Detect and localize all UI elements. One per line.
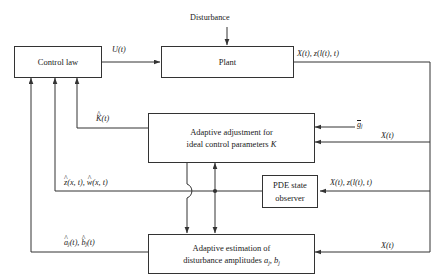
label-amplitude-estimates: ^aj(t), ^bj(t) xyxy=(64,238,95,247)
block-adaptive-estimation[interactable]: Adaptive estimation of disturbance ampli… xyxy=(148,234,315,274)
label-u-of-t: U(t) xyxy=(112,45,126,54)
pde-observer-line1: PDE state xyxy=(273,179,307,191)
label-g-bar: gj xyxy=(357,120,363,129)
adaptive-estimation-line1: Adaptive estimation of xyxy=(193,242,271,254)
hat-accent-w: ^ xyxy=(87,175,92,183)
block-pde-state-observer[interactable]: PDE state observer xyxy=(262,175,318,208)
label-plant-output: X(t), z(l(t), t) xyxy=(297,49,339,58)
adaptive-adjustment-line2: ideal control parameters K xyxy=(187,138,277,150)
hat-accent-k: ^ xyxy=(96,111,101,119)
adaptive-estimation-line2: disturbance amplitudes aj, bj xyxy=(183,254,280,266)
adaptive-adjustment-line1: Adaptive adjustment for xyxy=(190,126,273,138)
param-symbol-K: K xyxy=(271,139,277,149)
block-diagram-canvas: Control law Plant Adaptive adjustment fo… xyxy=(0,0,443,278)
block-plant[interactable]: Plant xyxy=(161,46,294,78)
control-law-label: Control law xyxy=(38,56,78,68)
pde-observer-line2: observer xyxy=(275,192,304,204)
label-observer-input: X(t), z(l(t), t) xyxy=(330,178,372,187)
hat-accent-b: ^ xyxy=(81,235,85,243)
bar-accent-g xyxy=(357,120,361,121)
label-k-hat: ^K(t) xyxy=(96,114,109,123)
label-state-estimates: ^z(x, t), ^w(x, t) xyxy=(64,178,108,187)
label-disturbance: Disturbance xyxy=(190,13,230,22)
block-control-law[interactable]: Control law xyxy=(14,46,102,78)
label-x-of-t-middle: X(t) xyxy=(381,131,394,140)
block-adaptive-adjustment[interactable]: Adaptive adjustment for ideal control pa… xyxy=(148,113,315,163)
hat-accent-z: ^ xyxy=(64,175,67,183)
label-x-of-t-bottom: X(t) xyxy=(381,241,394,250)
plant-label: Plant xyxy=(219,56,236,68)
